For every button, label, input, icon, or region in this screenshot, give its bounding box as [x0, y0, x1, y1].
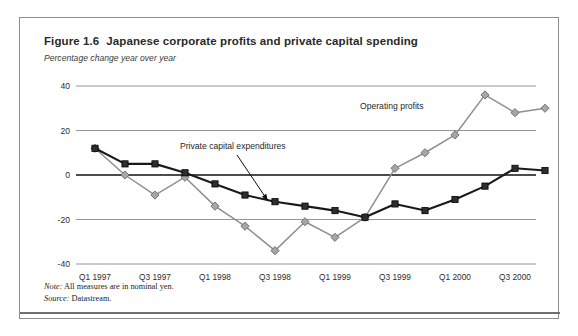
- data-point-marker: [541, 104, 549, 112]
- note-label: Note:: [44, 282, 62, 291]
- series-operating-profits: [91, 91, 549, 255]
- data-point-marker: [482, 183, 488, 189]
- data-point-marker: [512, 165, 518, 171]
- x-tick-label: Q1 1998: [199, 272, 231, 282]
- data-point-marker: [152, 161, 158, 167]
- bottom-divider: [20, 312, 560, 314]
- data-point-marker: [151, 191, 159, 199]
- figure-card: Figure 1.6Japanese corporate profits and…: [19, 17, 559, 319]
- series-line: [95, 95, 545, 251]
- y-tick-label: -40: [58, 259, 71, 269]
- series-private-capital-expenditures: [92, 145, 548, 220]
- data-point-marker: [122, 161, 128, 167]
- data-series: [91, 91, 549, 255]
- data-point-marker: [332, 208, 338, 214]
- data-point-marker: [511, 109, 519, 117]
- data-point-marker: [272, 199, 278, 205]
- y-tick-label: 20: [60, 126, 70, 136]
- x-tick-label: Q1 1997: [79, 272, 111, 282]
- data-point-marker: [242, 192, 248, 198]
- data-point-marker: [421, 149, 429, 157]
- series-annotation-label: Private capital expenditures: [180, 141, 286, 151]
- y-tick-label: 0: [65, 170, 70, 180]
- line-chart: 40200-20-40 Q1 1997Q3 1997Q1 1998Q3 1998…: [20, 18, 560, 320]
- chart-plot-area: 40200-20-40 Q1 1997Q3 1997Q1 1998Q3 1998…: [20, 18, 560, 320]
- data-point-marker: [212, 181, 218, 187]
- x-tick-label: Q1 1999: [319, 272, 351, 282]
- series-annotation-label: Operating profits: [360, 101, 424, 111]
- data-point-marker: [331, 233, 339, 241]
- note-line: Note: All measures are in nominal yen.: [44, 282, 174, 291]
- series-line: [95, 148, 545, 217]
- data-point-marker: [392, 201, 398, 207]
- data-point-marker: [422, 208, 428, 214]
- x-tick-label: Q3 1997: [139, 272, 171, 282]
- data-point-marker: [92, 145, 98, 151]
- x-axis-tick-labels: Q1 1997Q3 1997Q1 1998Q3 1998Q1 1999Q3 19…: [79, 272, 531, 282]
- y-tick-label: -20: [58, 215, 71, 225]
- data-point-marker: [391, 164, 399, 172]
- x-tick-label: Q3 1998: [259, 272, 291, 282]
- x-tick-label: Q3 1999: [379, 272, 411, 282]
- data-point-marker: [542, 167, 548, 173]
- y-axis-tick-labels: 40200-20-40: [58, 81, 71, 269]
- source-label: Source:: [44, 294, 70, 303]
- data-point-marker: [362, 214, 368, 220]
- x-tick-label: Q3 2000: [499, 272, 531, 282]
- data-point-marker: [452, 196, 458, 202]
- gridlines: [76, 86, 536, 264]
- x-tick-label: Q1 2000: [439, 272, 471, 282]
- source-line: Source: Datastream.: [44, 294, 111, 303]
- data-point-marker: [182, 170, 188, 176]
- source-text: Datastream.: [70, 294, 112, 303]
- note-text: All measures are in nominal yen.: [62, 282, 173, 291]
- data-point-marker: [302, 203, 308, 209]
- y-tick-label: 40: [60, 81, 70, 91]
